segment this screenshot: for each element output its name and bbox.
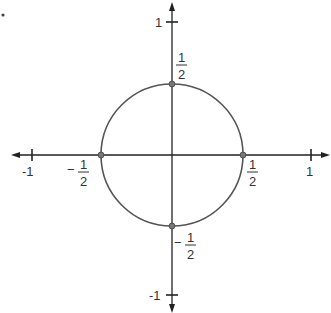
point-x-pos-half (240, 152, 246, 158)
point-y-neg-half (169, 223, 175, 229)
svg-text:2: 2 (249, 174, 256, 189)
y-axis-down-arrow-icon (169, 304, 175, 313)
label-y-neg-one: -1 (149, 288, 161, 303)
svg-text:1: 1 (187, 230, 194, 245)
label-x-neg-half: − 1 2 (67, 157, 89, 189)
svg-text:−: − (67, 162, 75, 177)
svg-text:2: 2 (178, 67, 185, 82)
y-axis (166, 2, 178, 313)
svg-text:1: 1 (178, 50, 185, 65)
label-x-neg-one: -1 (22, 164, 34, 179)
stray-dot (1, 13, 4, 16)
circle-diagram: -1 1 1 -1 − 1 2 1 2 1 2 − 1 2 (0, 0, 331, 313)
svg-text:2: 2 (80, 174, 87, 189)
x-axis (11, 149, 330, 161)
label-x-pos-half: 1 2 (247, 157, 258, 189)
svg-text:1: 1 (249, 157, 256, 172)
label-x-pos-one: 1 (306, 164, 313, 179)
svg-text:−: − (174, 235, 182, 250)
svg-text:1: 1 (80, 157, 87, 172)
x-axis-right-arrow-icon (321, 152, 330, 158)
label-y-neg-half: − 1 2 (174, 230, 196, 262)
y-axis-up-arrow-icon (169, 2, 175, 11)
svg-text:2: 2 (187, 247, 194, 262)
point-y-pos-half (169, 81, 175, 87)
label-y-pos-half: 1 2 (176, 50, 187, 82)
point-x-neg-half (98, 152, 104, 158)
x-axis-left-arrow-icon (11, 152, 20, 158)
label-y-pos-one: 1 (155, 15, 162, 30)
